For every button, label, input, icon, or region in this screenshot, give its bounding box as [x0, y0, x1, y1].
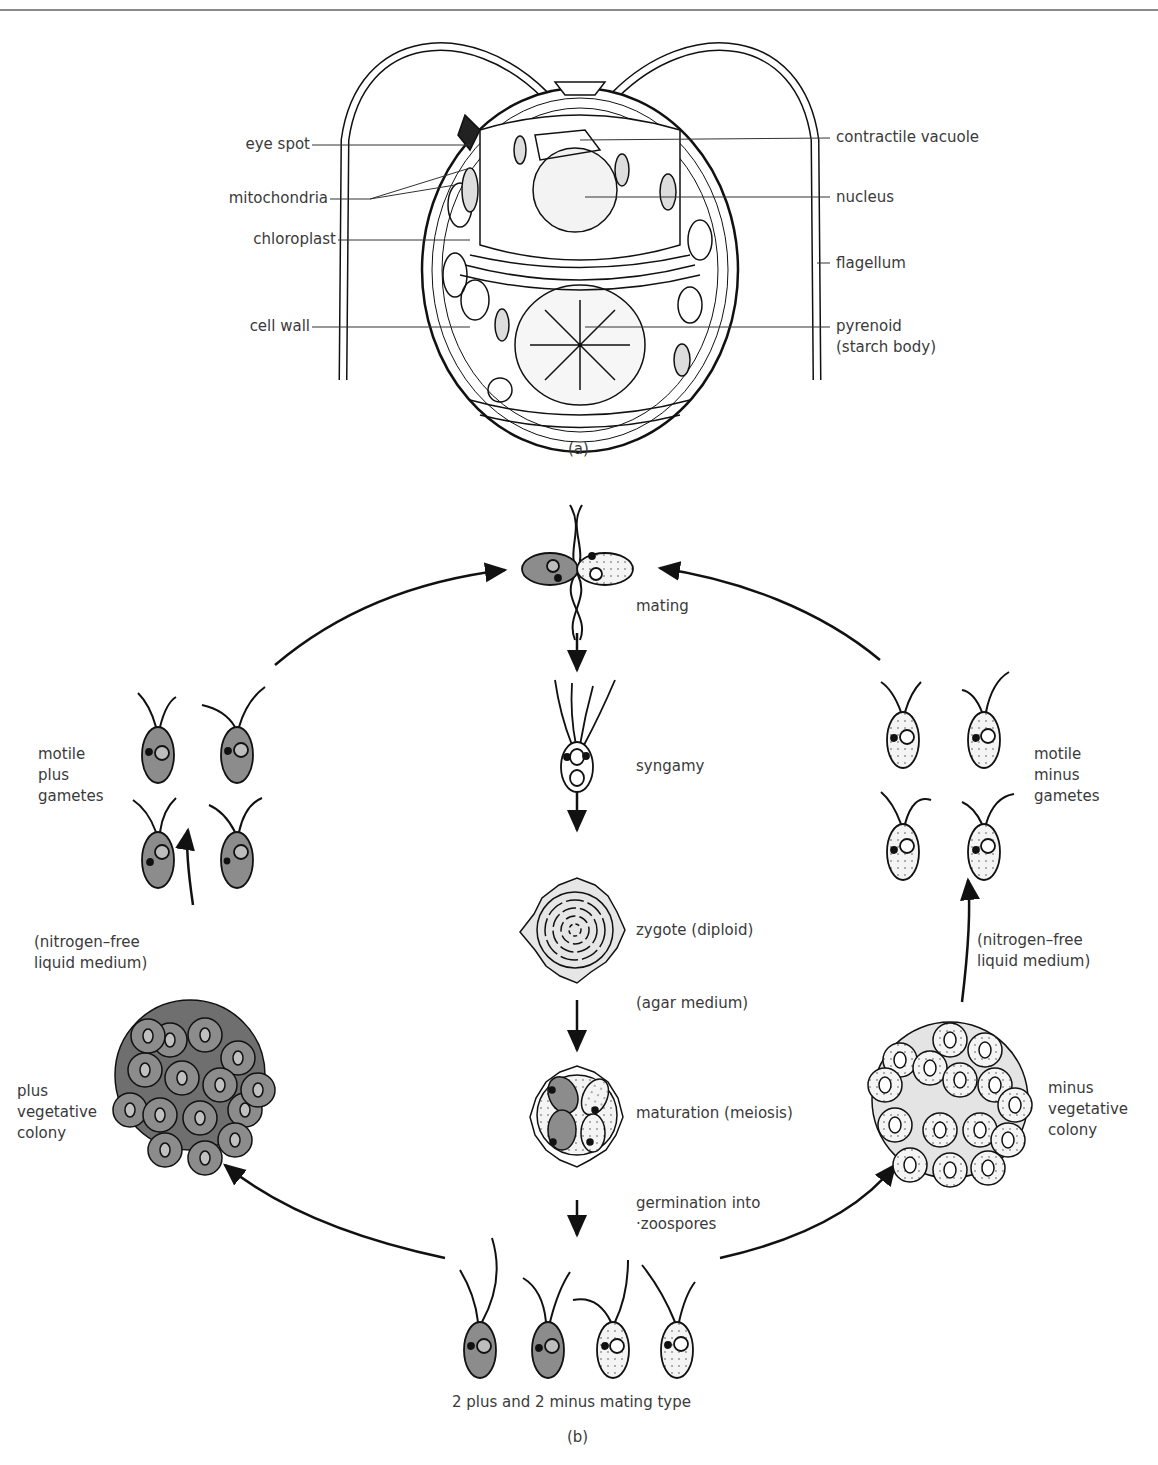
plus-gametes — [133, 687, 265, 888]
label-mitochondria: mitochondria — [180, 188, 328, 209]
label-zygote: zygote (diploid) — [636, 920, 753, 941]
label-eye-spot: eye spot — [200, 134, 310, 155]
label-agar-medium: (agar medium) — [636, 993, 748, 1014]
label-maturation: maturation (meiosis) — [636, 1103, 793, 1124]
label-medium-left: (nitrogen–free liquid medium) — [34, 932, 147, 974]
label-zoospores: 2 plus and 2 minus mating type — [452, 1393, 691, 1411]
label-germination: germination into ·zoospores — [636, 1193, 760, 1235]
label-flagellum: flagellum — [836, 253, 906, 274]
label-pyrenoid: pyrenoid (starch body) — [836, 316, 936, 358]
label-cell-wall: cell wall — [200, 316, 310, 337]
minus-gametes — [881, 672, 1014, 880]
zoospores — [460, 1238, 695, 1378]
label-mating: mating — [636, 596, 689, 617]
syngamy-cell — [555, 680, 615, 792]
minus-vegetative-colony — [868, 1022, 1032, 1187]
cell-diagram — [343, 47, 817, 452]
plus-vegetative-colony — [113, 1000, 275, 1175]
zygote — [520, 878, 625, 983]
label-motile-minus-gametes: motile minus gametes — [1034, 744, 1099, 807]
label-motile-plus-gametes: motile plus gametes — [38, 744, 103, 807]
chlamydomonas-figure — [0, 0, 1158, 1465]
label-chloroplast: chloroplast — [180, 229, 336, 250]
label-nucleus: nucleus — [836, 187, 894, 208]
mating-pair — [522, 505, 633, 640]
label-minus-colony: minus vegetative colony — [1048, 1078, 1128, 1141]
label-contractile-vacuole: contractile vacuole — [836, 127, 979, 148]
label-plus-colony: plus vegetative colony — [17, 1081, 97, 1144]
maturation-cell — [530, 1066, 623, 1167]
label-syngamy: syngamy — [636, 756, 704, 777]
caption-a: (a) — [568, 440, 589, 458]
label-medium-right: (nitrogen–free liquid medium) — [977, 930, 1090, 972]
caption-b: (b) — [567, 1428, 588, 1446]
